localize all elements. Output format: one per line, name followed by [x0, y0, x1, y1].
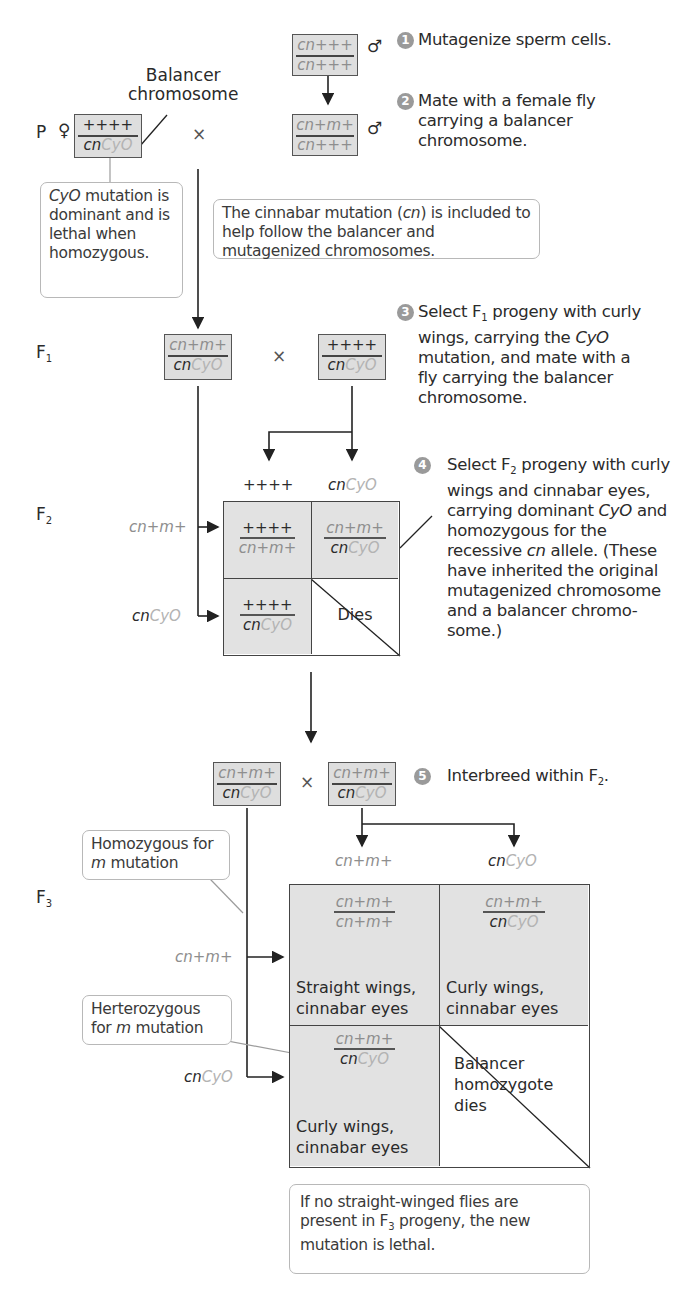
step-italic: cn [527, 541, 546, 560]
f2-cell-1: ++++cn+m+ [224, 502, 312, 579]
step-2-text: Mate with a female fly carrying a balanc… [418, 91, 598, 151]
female-symbol: ♀ [58, 120, 70, 140]
phenotype-line: Curly wings, [296, 1116, 408, 1137]
genotype-f2-left: cn+m+ cnCyO [213, 762, 281, 806]
geno-cn: cn [328, 356, 346, 374]
f3-cell-4-dies: Balancer homozygote dies [440, 1026, 588, 1166]
cell-top: ++++ [240, 519, 294, 539]
f3-row-header-1: cn+m+ [175, 948, 233, 966]
step-italic: CyO [575, 328, 608, 347]
f2-row-header-2: cnCyO [132, 607, 181, 625]
f3-punnett-grid: cn+m+cn+m+ Straight wings, cinnabar eyes… [289, 884, 590, 1168]
f2-col-header-1: ++++ [243, 476, 293, 494]
f2-cell-4-dies: Dies [312, 579, 398, 654]
genotype-f2-right: cn+m+ cnCyO [328, 762, 396, 806]
phenotype-line: cinnabar eyes [296, 998, 416, 1019]
cell-bottom: cn+m+ [239, 539, 297, 557]
step-italic: CyO [599, 501, 632, 520]
geno-cyo: CyO [101, 136, 132, 154]
generation-p: P [36, 122, 46, 142]
note-italic: m [116, 1019, 131, 1037]
generation-f1: F1 [36, 342, 52, 364]
step-1-text: Mutagenize sperm cells. [418, 30, 678, 50]
step-text: Interbreed within F [447, 766, 598, 785]
f2-punnett-grid: ++++cn+m+ cn+m+cnCyO ++++cnCyO Dies [223, 501, 400, 656]
step-4-text: Select F2 progeny with curly wings and c… [447, 455, 677, 641]
cross-symbol: × [300, 772, 314, 792]
balancer-label-line: chromosome [128, 85, 238, 104]
f2-cell-3: ++++cnCyO [224, 579, 312, 654]
cross-symbol: × [272, 346, 286, 366]
gen-sub: 3 [46, 898, 52, 909]
dies-label-line: Balancer [454, 1053, 553, 1074]
cell-bottom: cn+m+ [336, 913, 394, 931]
geno-bottom: cn+++ [296, 137, 354, 154]
cell-top: cn+m+ [334, 893, 396, 913]
geno-top: cn+++ [296, 37, 354, 57]
step-text: . [604, 766, 609, 785]
f2-col-header-2: cnCyO [328, 476, 377, 494]
note-italic: CyO [49, 187, 80, 205]
cell-top: cn+m+ [334, 1030, 396, 1050]
genotype-male-initial: cn+++ cn+++ [292, 34, 358, 76]
step-badge-2: 2 [397, 93, 414, 110]
f3-cell-3: cn+m+cnCyO Curly wings, cinnabar eyes [290, 1026, 440, 1166]
geno-cn: cn [338, 784, 356, 802]
gen-letter: F [36, 887, 46, 907]
f3-row-header-2: cnCyO [184, 1068, 233, 1086]
f3-cell-2: cn+m+cnCyO Curly wings, cinnabar eyes [440, 885, 588, 1026]
note-heterozygous: Herterozygous for m mutation [82, 995, 232, 1045]
genotype-f1-right: ++++ cnCyO [318, 334, 386, 380]
step-text: Select F [418, 302, 481, 321]
generation-f2: F2 [36, 504, 52, 526]
dies-label-line: dies [454, 1095, 553, 1116]
gen-letter: F [36, 342, 46, 362]
geno-top: cn+m+ [168, 337, 228, 357]
note-cyo-lethal: CyO mutation is dominant and is lethal w… [40, 182, 183, 298]
step-text: Select F [447, 455, 510, 474]
gen-letter: F [36, 504, 46, 524]
note-italic: cn [403, 204, 421, 222]
step-text: mutation, and mate with a fly carrying t… [418, 348, 630, 407]
phenotype-line: Straight wings, [296, 977, 416, 998]
geno-cn: cn [174, 356, 192, 374]
note-text: Homozygous for [91, 835, 213, 853]
step-badge-4: 4 [414, 457, 431, 474]
step-badge-3: 3 [397, 304, 414, 321]
genotype-male-mutagenized: cn+m+ cn+++ [292, 114, 358, 156]
geno-cyo: CyO [240, 784, 271, 802]
note-homozygous: Homozygous for m mutation [82, 830, 230, 880]
f3-col-header-2: cnCyO [488, 852, 537, 870]
genotype-p-female: ++++ cnCyO [74, 114, 142, 158]
f2-row-header-1: cn+m+ [129, 518, 187, 536]
gen-sub: 2 [46, 515, 52, 526]
cross-symbol: × [192, 124, 206, 144]
gen-sub: 1 [46, 353, 52, 364]
geno-top: ++++ [78, 117, 138, 137]
geno-top: cn+m+ [296, 117, 354, 137]
geno-cyo: CyO [345, 356, 376, 374]
note-text: mutation [106, 854, 178, 872]
generation-f3: F3 [36, 887, 52, 909]
note-text: The cinnabar mutation ( [222, 204, 403, 222]
phenotype-line: cinnabar eyes [296, 1137, 408, 1158]
geno-bottom: cn+++ [296, 57, 354, 74]
balancer-label-line: Balancer [128, 66, 238, 85]
step-3-text: Select F1 progeny with curly wings, carr… [418, 302, 648, 408]
step-badge-5: 5 [414, 768, 431, 785]
cell-top: cn+m+ [483, 893, 545, 913]
male-symbol: ♂ [367, 118, 382, 138]
note-italic: m [91, 854, 106, 872]
balancer-label: Balancer chromosome [128, 66, 238, 104]
dies-label-line: homozygote [454, 1074, 553, 1095]
note-text: mutation [131, 1019, 203, 1037]
f3-col-header-1: cn+m+ [335, 852, 393, 870]
geno-top: cn+m+ [217, 765, 277, 785]
geno-cn: cn [84, 136, 102, 154]
f2-cell-2: cn+m+cnCyO [312, 502, 398, 579]
cell-top: ++++ [240, 596, 294, 616]
cell-top: cn+m+ [324, 519, 386, 539]
f3-cell-1: cn+m+cn+m+ Straight wings, cinnabar eyes [290, 885, 440, 1026]
geno-top: cn+m+ [332, 765, 392, 785]
note-cinnabar: The cinnabar mutation (cn) is included t… [213, 199, 540, 259]
